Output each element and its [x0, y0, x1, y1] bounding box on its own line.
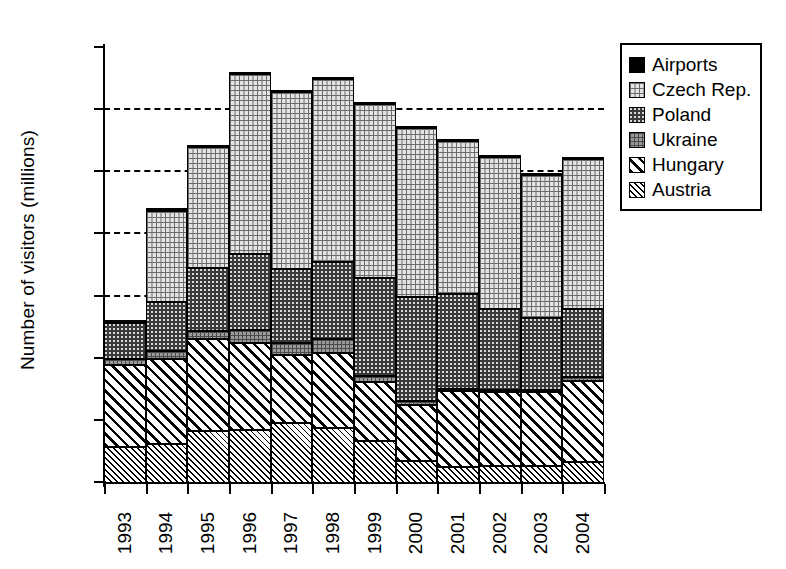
bar-segment-airports-1998[interactable]	[312, 77, 354, 79]
x-tick-label-1995: 1995	[187, 496, 229, 566]
bar-segment-poland-1998[interactable]	[312, 262, 354, 339]
bar-segment-ukraine-2001[interactable]	[437, 389, 479, 391]
x-tick-4	[271, 484, 273, 494]
bar-segment-airports-2000[interactable]	[396, 126, 438, 128]
x-tick-2	[187, 484, 189, 494]
bar-segment-airports-1995[interactable]	[187, 145, 229, 147]
bar-segment-airports-1993[interactable]	[104, 320, 146, 322]
bar-segment-poland-2003[interactable]	[521, 318, 563, 390]
legend-item-poland[interactable]: Poland	[629, 102, 751, 127]
bar-segment-ukraine-1995[interactable]	[187, 331, 229, 338]
bar-segment-poland-2002[interactable]	[479, 309, 521, 390]
bar-segment-hungary-2001[interactable]	[437, 391, 479, 467]
legend-item-ukraine[interactable]: Ukraine	[629, 127, 751, 152]
bar-segment-czech-rep-2003[interactable]	[521, 175, 563, 318]
bar-segment-austria-1994[interactable]	[146, 444, 188, 483]
bar-segment-czech-rep-1997[interactable]	[271, 92, 313, 270]
x-tick-label-2000: 2000	[396, 496, 438, 566]
bar-segment-austria-1998[interactable]	[312, 428, 354, 483]
bar-segment-ukraine-2000[interactable]	[396, 401, 438, 405]
legend-swatch-icon	[629, 57, 645, 73]
bar-segment-airports-1999[interactable]	[354, 102, 396, 104]
bar-segment-hungary-2000[interactable]	[396, 405, 438, 461]
x-tick-label-2003: 2003	[521, 496, 563, 566]
bar-segment-austria-1995[interactable]	[187, 431, 229, 483]
x-tick-label-2004: 2004	[562, 496, 604, 566]
bar-segment-airports-2003[interactable]	[521, 173, 563, 175]
bar-segment-czech-rep-1999[interactable]	[354, 104, 396, 278]
x-tick-label-2001: 2001	[437, 496, 479, 566]
bar-segment-czech-rep-1998[interactable]	[312, 79, 354, 262]
bar-segment-airports-2001[interactable]	[437, 139, 479, 141]
bar-segment-ukraine-2002[interactable]	[479, 390, 521, 392]
bar-segment-poland-1999[interactable]	[354, 278, 396, 376]
bar-segment-ukraine-1997[interactable]	[271, 343, 313, 355]
bar-segment-czech-rep-1994[interactable]	[146, 211, 188, 302]
bar-segment-austria-2003[interactable]	[521, 466, 563, 483]
bar-segment-ukraine-1993[interactable]	[104, 359, 146, 365]
bar-segment-hungary-1996[interactable]	[229, 343, 271, 430]
bar-segment-hungary-1997[interactable]	[271, 355, 313, 423]
bar-segment-hungary-1993[interactable]	[104, 365, 146, 447]
plot-area	[104, 48, 604, 483]
bar-segment-ukraine-1999[interactable]	[354, 376, 396, 382]
x-tick-3	[229, 484, 231, 494]
bar-segment-czech-rep-2000[interactable]	[396, 128, 438, 297]
y-tick-30	[94, 108, 103, 110]
bar-segment-czech-rep-1995[interactable]	[187, 147, 229, 268]
bar-segment-ukraine-1998[interactable]	[312, 339, 354, 353]
bar-segment-czech-rep-2002[interactable]	[479, 157, 521, 309]
legend-item-hungary[interactable]: Hungary	[629, 152, 751, 177]
bar-segment-hungary-1999[interactable]	[354, 382, 396, 440]
legend-item-airports[interactable]: Airports	[629, 52, 751, 77]
bar-segment-hungary-1994[interactable]	[146, 359, 188, 445]
x-tick-label-text: 1997	[280, 512, 302, 554]
bar-segment-hungary-2004[interactable]	[562, 381, 604, 462]
x-tick-7	[396, 484, 398, 494]
bar-segment-hungary-2002[interactable]	[479, 392, 521, 465]
bar-segment-hungary-1995[interactable]	[187, 339, 229, 431]
legend-item-czech-rep[interactable]: Czech Rep.	[629, 77, 751, 102]
legend-item-austria[interactable]: Austria	[629, 177, 751, 202]
bar-segment-hungary-2003[interactable]	[521, 392, 563, 465]
legend-label: Austria	[652, 179, 711, 201]
bar-segment-poland-1993[interactable]	[104, 323, 146, 359]
bar-segment-czech-rep-2004[interactable]	[562, 159, 604, 309]
x-tick-label-1996: 1996	[229, 496, 271, 566]
legend-label: Czech Rep.	[652, 79, 751, 101]
bar-segment-ukraine-2003[interactable]	[521, 390, 563, 392]
x-tick-label-text: 1994	[155, 512, 177, 554]
bar-segment-airports-1997[interactable]	[271, 90, 313, 92]
bar-segment-poland-1997[interactable]	[271, 269, 313, 342]
bar-segment-ukraine-2004[interactable]	[562, 377, 604, 381]
bar-segment-czech-rep-1996[interactable]	[229, 74, 271, 254]
bar-segment-czech-rep-2001[interactable]	[437, 141, 479, 294]
bar-segment-poland-1996[interactable]	[229, 254, 271, 330]
bar-segment-austria-1993[interactable]	[104, 447, 146, 483]
bar-segment-airports-2004[interactable]	[562, 157, 604, 159]
bar-segment-poland-1994[interactable]	[146, 302, 188, 352]
bar-segment-poland-2001[interactable]	[437, 294, 479, 388]
bar-segment-ukraine-1996[interactable]	[229, 330, 271, 342]
bar-segment-poland-2000[interactable]	[396, 297, 438, 401]
bar-segment-poland-2004[interactable]	[562, 309, 604, 377]
x-axis-ticks	[104, 484, 606, 494]
bar-segment-austria-2001[interactable]	[437, 467, 479, 483]
bar-segment-airports-2002[interactable]	[479, 155, 521, 157]
bar-segment-austria-1997[interactable]	[271, 423, 313, 483]
bar-segment-ukraine-1994[interactable]	[146, 351, 188, 358]
bar-segment-austria-1996[interactable]	[229, 430, 271, 483]
legend-label: Airports	[652, 54, 717, 76]
y-tick-25	[94, 170, 103, 172]
bar-segment-austria-1999[interactable]	[354, 441, 396, 483]
bar-segment-airports-1994[interactable]	[146, 208, 188, 210]
bar-segment-hungary-1998[interactable]	[312, 353, 354, 429]
x-tick-label-text: 2001	[447, 512, 469, 554]
bar-segment-austria-2000[interactable]	[396, 461, 438, 483]
bar-segment-austria-2002[interactable]	[479, 466, 521, 483]
bar-segment-airports-1996[interactable]	[229, 72, 271, 74]
x-tick-8	[437, 484, 439, 494]
bar-segment-austria-2004[interactable]	[562, 462, 604, 483]
bar-segment-poland-1995[interactable]	[187, 268, 229, 331]
x-tick-1	[146, 484, 148, 494]
